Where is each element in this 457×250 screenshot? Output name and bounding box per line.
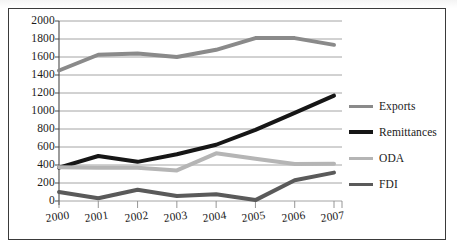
- y-axis-label: 1000: [11, 105, 55, 117]
- y-axis-label: 1600: [11, 51, 55, 63]
- legend-label: FDI: [379, 178, 398, 190]
- y-axis-label: 1800: [11, 33, 55, 45]
- y-axis-label: 200: [11, 177, 55, 189]
- y-axis-label: 1400: [11, 69, 55, 81]
- y-axis-label: 0: [11, 195, 55, 207]
- legend-item: ODA: [349, 145, 445, 171]
- y-axis-label: 800: [11, 123, 55, 135]
- series-line-remittances: [59, 96, 334, 168]
- legend-item: Remittances: [349, 119, 445, 145]
- legend-swatch-icon: [349, 105, 373, 108]
- y-axis-label: 400: [11, 159, 55, 171]
- x-tick-marks: [59, 201, 342, 208]
- legend-item: FDI: [349, 171, 445, 197]
- legend-label: ODA: [379, 152, 404, 164]
- y-axis-tick-labels: 0200400600800100012001400160018002000: [11, 9, 55, 241]
- figure-frame: 0200400600800100012001400160018002000 20…: [8, 8, 446, 240]
- legend-swatch-icon: [349, 130, 373, 134]
- series-line-exports: [59, 38, 334, 70]
- legend-item: Exports: [349, 93, 445, 119]
- legend-swatch-icon: [349, 183, 373, 186]
- series-line-fdi: [59, 173, 334, 200]
- legend-label: Exports: [379, 100, 415, 112]
- legend-swatch-icon: [349, 157, 373, 160]
- page-scan-artifact: [0, 0, 457, 8]
- line-chart: 0200400600800100012001400160018002000 20…: [9, 9, 447, 241]
- axis-lines: [55, 21, 59, 205]
- y-axis-label: 600: [11, 141, 55, 153]
- y-axis-label: 2000: [11, 15, 55, 27]
- chart-legend: ExportsRemittancesODAFDI: [349, 93, 445, 197]
- legend-label: Remittances: [379, 126, 437, 138]
- series-lines: [59, 38, 334, 200]
- y-axis-label: 1200: [11, 87, 55, 99]
